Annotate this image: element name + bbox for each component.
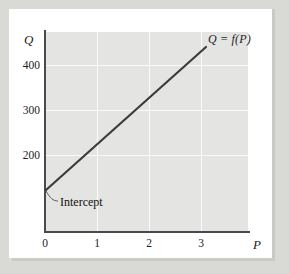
- function-annotation-label: Q = f(P): [208, 33, 251, 45]
- y-tick-labels: 400 300 200: [0, 0, 40, 274]
- x-axis-label: P: [253, 238, 261, 251]
- y-tick-400: 400: [4, 60, 40, 72]
- x-axis-line: [44, 231, 250, 233]
- gridline-y-300: [45, 110, 248, 111]
- x-tick-2: 2: [139, 238, 159, 250]
- intercept-annotation-label: Intercept: [60, 196, 103, 208]
- gridline-y-400: [45, 65, 248, 66]
- y-axis-line: [44, 30, 46, 233]
- gridline-x-2: [149, 32, 150, 232]
- y-tick-200: 200: [4, 150, 40, 162]
- gridline-x-3: [201, 32, 202, 232]
- x-tick-1: 1: [87, 238, 107, 250]
- supply-function-chart: Q P 400 300 200 0 1 2 3 Q = f(P) Interce…: [0, 0, 289, 274]
- gridline-y-200: [45, 155, 248, 156]
- x-tick-3: 3: [191, 238, 211, 250]
- x-tick-0: 0: [35, 238, 55, 250]
- y-tick-300: 300: [4, 105, 40, 117]
